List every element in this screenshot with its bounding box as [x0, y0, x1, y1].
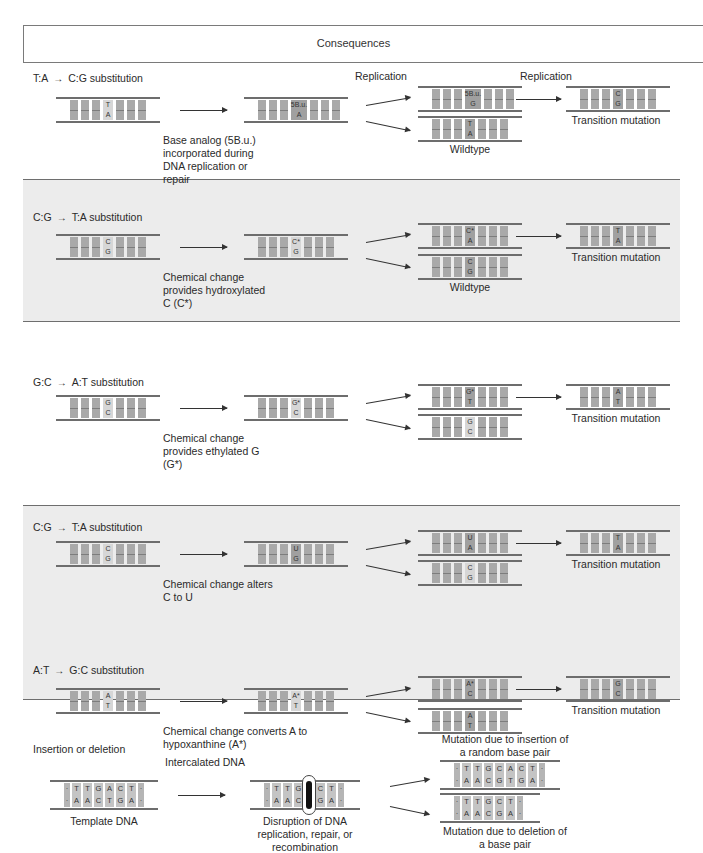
base-pair [326, 237, 334, 257]
key-base-pair: 5B.u.A [291, 100, 307, 120]
base-bottom: G [467, 574, 472, 582]
base-pair [478, 563, 486, 583]
base-bottom: C [486, 810, 491, 818]
base-top: G [96, 785, 102, 793]
dna-strand-bottom [418, 438, 522, 440]
base-bottom: A [475, 777, 480, 785]
base-pair-end: ·· [64, 783, 70, 807]
base-top: G* [466, 388, 474, 396]
base-bottom: A [74, 797, 79, 805]
base-pair [432, 226, 440, 246]
base-top: A* [292, 692, 299, 700]
dna-strand-top [418, 530, 522, 532]
base-pair-end: ·· [454, 763, 460, 787]
base-pair [591, 89, 599, 109]
base-top: G* [292, 399, 300, 407]
dna-insertion: ··TATAGCCGATCGTA·· [440, 760, 560, 790]
dna-strand-top [418, 560, 522, 562]
base-pairs: CG [432, 563, 508, 583]
key-base-pair: CG [103, 237, 113, 257]
base-bottom: A [508, 810, 513, 818]
dna-strand-top [418, 254, 522, 256]
base-pair [591, 533, 599, 553]
base-pair [443, 563, 451, 583]
base-pair [454, 679, 462, 699]
base-pair [304, 691, 312, 711]
base-top: C* [292, 238, 300, 246]
result-caption: Transition mutation [566, 114, 666, 127]
base-pairs: UA [432, 533, 508, 553]
base-pair [580, 89, 588, 109]
base-top: T [508, 798, 513, 806]
dna-strand-top [566, 530, 670, 532]
title-to: C:G substitution [68, 72, 143, 84]
base-pairs: TA [70, 100, 146, 120]
base-bottom: T [616, 398, 620, 406]
intercalator-icon [302, 775, 316, 815]
base-pair: TA [83, 783, 92, 807]
dna-strand-bottom [244, 258, 348, 260]
base-bottom: G [467, 268, 472, 276]
base-top: G [615, 680, 620, 688]
base-pair [269, 544, 277, 564]
key-base-pair: A*C [465, 679, 475, 699]
base-pair [70, 237, 78, 257]
dna-strand-bottom [56, 419, 160, 421]
base-pair [321, 100, 329, 120]
base-pair-end: ·· [338, 783, 344, 807]
base-top: A [106, 692, 111, 700]
base-bottom: A [468, 544, 473, 552]
base-pair [280, 691, 288, 711]
base-pair [626, 679, 634, 699]
base-pair-end: ·· [264, 783, 270, 807]
base-bottom: G [105, 555, 110, 563]
base-pair [500, 563, 508, 583]
base-pair [81, 237, 89, 257]
dna-strand-top [56, 688, 160, 690]
base-pair [315, 691, 323, 711]
dna-strand-top [418, 708, 522, 710]
dna-strand-top [244, 234, 348, 236]
dot: · [456, 777, 459, 785]
base-bottom: C [105, 409, 110, 417]
key-base-pair: TA [613, 226, 623, 246]
key-base-pair: CG [465, 563, 475, 583]
base-bottom: C [467, 690, 472, 698]
base-top: T [129, 785, 134, 793]
base-pair [326, 691, 334, 711]
base-top: T [616, 534, 620, 542]
base-pair [500, 257, 508, 277]
dna-strand-bottom [566, 110, 670, 112]
base-top: A [616, 388, 621, 396]
base-pair [478, 226, 486, 246]
dot: · [456, 765, 459, 773]
base-bottom: A [475, 810, 480, 818]
key-base-pair: AT [613, 387, 623, 407]
base-pair [637, 679, 645, 699]
base-pair [315, 398, 323, 418]
base-pair [116, 691, 124, 711]
step-caption: Chemical change provides ethylated G (G*… [163, 432, 273, 471]
base-pair [478, 679, 486, 699]
base-pairs: CG [70, 544, 146, 564]
arrow-step [180, 110, 227, 111]
dna-strand-top [566, 223, 670, 225]
base-pair-end: ·· [517, 796, 523, 820]
base-pair [304, 237, 312, 257]
base-top: T [74, 785, 79, 793]
base-pair [478, 533, 486, 553]
key-base-pair: TA [103, 100, 113, 120]
base-pair [443, 711, 451, 731]
key-base-pair: AT [465, 711, 475, 731]
dna-modified: C*G [244, 234, 348, 260]
dna-strand-bottom [244, 565, 348, 567]
base-top: C [467, 564, 472, 572]
base-pair [326, 398, 334, 418]
key-base-pair: TA [613, 533, 623, 553]
base-pair [116, 398, 124, 418]
base-pair [70, 398, 78, 418]
base-pair [489, 533, 497, 553]
base-pair [258, 544, 266, 564]
base-pair [454, 711, 462, 731]
dot: · [519, 810, 522, 818]
